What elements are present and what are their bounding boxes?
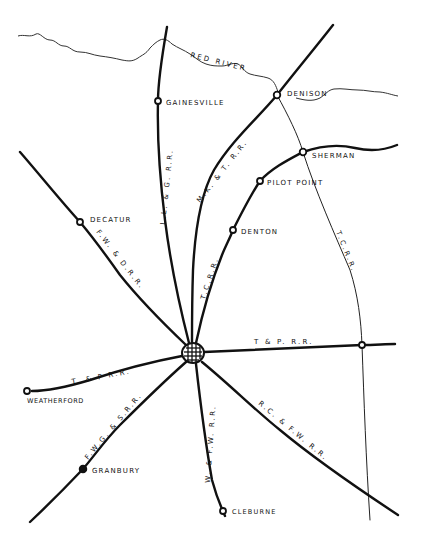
town-label-pilot-point: PILOT POINT — [267, 179, 323, 187]
town-marker-weatherford — [24, 388, 30, 394]
railroad-label-tc-east: T.C.R.R. — [334, 229, 358, 274]
town-label-denton: DENTON — [241, 228, 278, 236]
river-label: RED RIVER — [190, 51, 248, 73]
railroad-label-fwd: F.W. & D.R.R. — [94, 228, 145, 291]
town-label-sherman: SHERMAN — [312, 152, 355, 160]
railroad-label-tp-east: T & P. R.R. — [253, 338, 314, 346]
town-marker-denison — [274, 92, 281, 99]
town-label-cleburne: CLEBURNE — [232, 508, 277, 516]
town-marker-decatur — [77, 219, 83, 225]
railroad-label-rcfw: R.C. & F.W. R.R. — [257, 399, 330, 462]
town-marker-pilot-point — [257, 178, 263, 184]
town-marker-denton — [230, 227, 236, 233]
railroad-tc-west — [196, 145, 397, 343]
railroad-label-wfw: W. & F.W. R.R. — [204, 404, 217, 483]
city-grid-icon — [182, 343, 204, 363]
town-marker-granbury — [80, 466, 87, 473]
town-label-gainesville: GAINESVILLE — [166, 99, 225, 107]
town-marker-sherman — [300, 149, 307, 156]
railroad-label-mkt: M.K. & T. R.R. — [195, 138, 249, 204]
town-label-weatherford: WEATHERFORD — [27, 397, 84, 405]
town-label-granbury: GRANBURY — [92, 467, 140, 475]
town-marker-cleburne — [220, 508, 226, 514]
railroad-label-tp-west: T. & P R.R. — [70, 368, 131, 386]
town-marker-junction — [359, 342, 365, 348]
railroad-label-tc-west: T.C.R.R. — [199, 256, 221, 301]
railroad-fwgs — [30, 362, 186, 522]
town-label-decatur: DECATUR — [90, 216, 132, 224]
railroad-label-fwgs: F.W.G. & S.R.R. — [83, 391, 143, 461]
railroad-map: GAINESVILLE DENISON SHERMAN PILOT POINT … — [0, 0, 421, 544]
town-label-denison: DENISON — [287, 90, 328, 98]
town-marker-gainesville — [155, 98, 161, 104]
